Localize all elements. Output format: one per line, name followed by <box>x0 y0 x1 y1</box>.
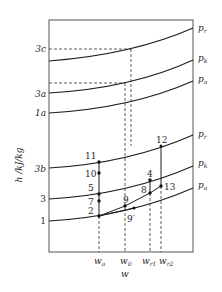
point-5 <box>97 192 100 195</box>
point-13 <box>159 184 162 187</box>
x-tick-wr2: wr2 <box>159 256 174 267</box>
y-tick-1a: 1a <box>35 108 46 118</box>
x-axis-label: w <box>121 269 129 279</box>
curve-label-pr-lower: pr <box>198 129 208 140</box>
plot-frame <box>49 20 193 252</box>
x-tick-w0: w0 <box>120 256 132 267</box>
point-10 <box>97 171 100 174</box>
curve-pr-upper <box>49 28 193 61</box>
point-11 <box>97 160 100 163</box>
y-tick-3a: 3a <box>35 89 46 99</box>
y-tick-3: 3 <box>40 194 46 204</box>
point-label-11: 11 <box>85 151 96 161</box>
y-axis-label: h /kJ/kg <box>14 147 24 182</box>
curve-pa-lower <box>49 188 193 221</box>
curve-pr-lower <box>49 135 193 168</box>
point-9prime <box>133 207 136 210</box>
point-label-2: 2 <box>88 206 94 216</box>
curve-pk-upper <box>49 60 193 93</box>
y-tick-3c: 3c <box>35 44 46 54</box>
point-2 <box>97 214 100 217</box>
curve-label-pr-upper: pr <box>198 23 208 34</box>
x-tick-wa: wa <box>94 256 106 267</box>
point-label-12: 12 <box>156 135 167 145</box>
y-tick-1: 1 <box>40 216 46 226</box>
point-7 <box>97 199 100 202</box>
point-label-5: 5 <box>88 183 94 193</box>
curve-label-pa-upper: pa <box>198 74 208 85</box>
x-tick-wr1: wr1 <box>142 256 156 267</box>
curve-pa-upper <box>49 81 193 113</box>
point-label-4: 4 <box>147 169 153 179</box>
point-label-8: 8 <box>141 185 147 195</box>
point-8 <box>148 191 151 194</box>
point-label-10: 10 <box>85 169 97 179</box>
h-w-diagram: h /kJ/kg 11 10 5 7 2 9 9′ 8 4 13 12 3c 3… <box>0 0 222 292</box>
point-label-13: 13 <box>164 182 176 192</box>
curve-label-pk-upper: pk <box>198 53 208 64</box>
y-tick-3b: 3b <box>35 164 47 174</box>
point-label-9: 9 <box>123 195 129 205</box>
curve-label-pa-lower: pa <box>198 180 208 191</box>
point-label-9prime: 9′ <box>127 214 135 224</box>
curve-label-pk-lower: pk <box>198 158 208 169</box>
